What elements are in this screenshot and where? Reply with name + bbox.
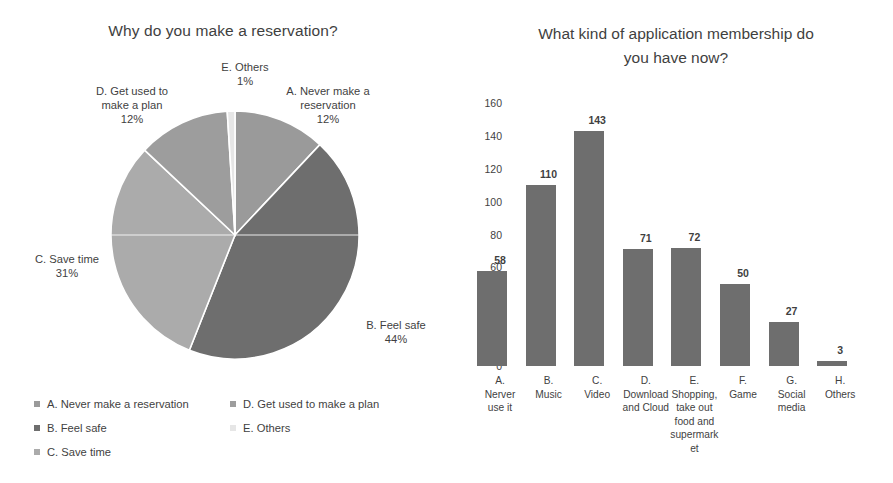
bar[interactable] <box>720 284 750 366</box>
legend-swatch-icon <box>230 425 236 431</box>
pie-callout-a-name2: reservation <box>300 99 355 111</box>
legend-label: A. Never make a reservation <box>47 398 189 410</box>
pie-svg <box>110 110 360 360</box>
pie-callout-b-pct: 44% <box>346 332 446 346</box>
pie-chart-panel: Why do you make a reservation? E. Others… <box>0 0 446 483</box>
legend-label: C. Save time <box>47 446 111 458</box>
pie-chart-graphic <box>110 110 360 360</box>
bar-value-label: 143 <box>562 114 632 126</box>
legend-label: B. Feel safe <box>47 422 107 434</box>
legend-swatch-icon <box>34 401 40 407</box>
x-axis-category-label: H.Others <box>803 374 877 401</box>
pie-callout-d-pct: 12% <box>72 112 192 126</box>
x-axis-category-line: media <box>755 401 829 415</box>
pie-callout-b: B. Feel safe 44% <box>346 318 446 346</box>
pie-legend: A. Never make a reservationB. Feel safeC… <box>34 392 434 464</box>
bar[interactable] <box>477 271 507 366</box>
bar[interactable] <box>817 361 847 366</box>
bar-value-label: 50 <box>708 267 778 279</box>
legend-swatch-icon <box>34 425 40 431</box>
bar-plot-area: 160140120100806040200 58A.Nerveruse it11… <box>446 0 893 483</box>
legend-item-c[interactable]: C. Save time <box>34 440 230 464</box>
legend-label: E. Others <box>243 422 290 434</box>
pie-callout-d-name: D. Get used to <box>96 85 168 97</box>
x-axis-category-line: use it <box>463 401 537 415</box>
legend-item-b[interactable]: B. Feel safe <box>34 416 230 440</box>
pie-callout-e-name: E. Others <box>221 61 268 73</box>
pie-chart-title: Why do you make a reservation? <box>0 22 446 40</box>
bar-value-label: 58 <box>465 254 535 266</box>
pie-callout-a-pct: 12% <box>268 112 388 126</box>
legend-swatch-icon <box>230 401 236 407</box>
legend-label: D. Get used to make a plan <box>243 398 379 410</box>
pie-callout-b-name: B. Feel safe <box>366 319 426 331</box>
legend-item-a[interactable]: A. Never make a reservation <box>34 392 230 416</box>
x-axis-category-line: Others <box>803 388 877 402</box>
bar-value-label: 27 <box>757 305 827 317</box>
y-axis-tick-120: 120 <box>458 163 502 175</box>
pie-callout-a: A. Never make a reservation 12% <box>268 84 388 126</box>
bar-chart-panel: What kind of application membership do y… <box>446 0 893 483</box>
bar[interactable] <box>574 131 604 366</box>
y-axis-tick-160: 160 <box>458 97 502 109</box>
bar-value-label: 72 <box>659 231 729 243</box>
pie-callout-d: D. Get used to make a plan 12% <box>72 84 192 126</box>
bar[interactable] <box>526 185 556 366</box>
pie-callout-c-name: C. Save time <box>35 253 99 265</box>
pie-callout-c: C. Save time 31% <box>8 252 126 280</box>
x-axis-category-line: take out <box>657 401 731 415</box>
y-axis-tick-80: 80 <box>458 229 502 241</box>
y-axis-tick-140: 140 <box>458 130 502 142</box>
y-axis-tick-100: 100 <box>458 196 502 208</box>
bar-value-label: 110 <box>514 168 584 180</box>
legend-item-d[interactable]: D. Get used to make a plan <box>230 392 426 416</box>
bar[interactable] <box>769 322 799 366</box>
x-axis-category-line: food and <box>657 415 731 429</box>
x-axis-category-line: H. <box>803 374 877 388</box>
pie-callout-c-pct: 31% <box>8 266 126 280</box>
pie-callout-a-name: A. Never make a <box>286 85 369 97</box>
legend-swatch-icon <box>34 449 40 455</box>
x-axis-category-line: et <box>657 442 731 456</box>
bar[interactable] <box>623 249 653 366</box>
x-axis-category-line: supermark <box>657 428 731 442</box>
bar[interactable] <box>671 248 701 366</box>
pie-callout-d-name2: make a plan <box>102 99 163 111</box>
bar-value-label: 3 <box>805 344 875 356</box>
legend-item-e[interactable]: E. Others <box>230 416 426 440</box>
